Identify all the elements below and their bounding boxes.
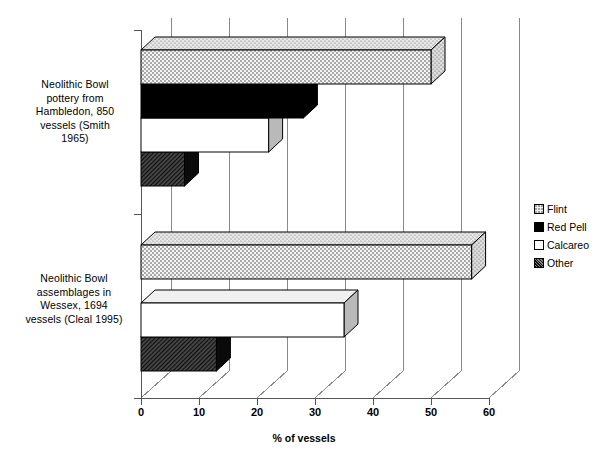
category-label-line: Hambledon, 850 <box>12 105 138 119</box>
legend-item-calcareous[interactable]: Calcareo <box>534 236 608 254</box>
legend-label-flint: Flint <box>547 203 567 215</box>
legend-swatch-other-icon <box>534 258 544 268</box>
x-tick-label-0: 0 <box>126 406 156 418</box>
plot-area <box>134 18 519 405</box>
chart-canvas <box>0 0 608 452</box>
category-label-wessex: Neolithic Bowl assemblages in Wessex, 16… <box>8 272 140 326</box>
x-tick-label-60: 60 <box>474 406 504 418</box>
x-axis-title: % of vessels <box>0 432 608 444</box>
legend-swatch-calcareous-icon <box>534 240 544 250</box>
legend-swatch-flint-icon <box>534 204 544 214</box>
bar-wessex-flint <box>141 232 486 279</box>
legend-swatch-red-pellet-icon <box>534 222 544 232</box>
x-tick-label-30: 30 <box>300 406 330 418</box>
category-label-line: pottery from <box>12 92 138 106</box>
legend-label-calcareous: Calcareo <box>547 239 589 251</box>
bar-hambledon-flint <box>141 37 445 84</box>
legend-item-flint[interactable]: Flint <box>534 200 608 218</box>
category-label-line: vessels (Cleal 1995) <box>8 313 140 327</box>
legend-label-other: Other <box>547 257 573 269</box>
category-label-line: Neolithic Bowl <box>12 78 138 92</box>
category-label-line: Wessex, 1694 <box>8 299 140 313</box>
category-label-hambledon: Neolithic Bowl pottery from Hambledon, 8… <box>12 78 138 146</box>
category-label-line: vessels (Smith <box>12 119 138 133</box>
x-tick-label-10: 10 <box>184 406 214 418</box>
category-label-line: Neolithic Bowl <box>8 272 140 286</box>
bar-wessex-calcareous <box>141 290 358 337</box>
category-label-line: assemblages in <box>8 286 140 300</box>
legend-item-other[interactable]: Other <box>534 254 608 272</box>
legend-label-red-pellet: Red Pell <box>547 221 587 233</box>
bar-chart: Neolithic Bowl pottery from Hambledon, 8… <box>0 0 608 452</box>
x-tick-label-20: 20 <box>242 406 272 418</box>
category-label-line: 1965) <box>12 132 138 146</box>
chart-legend: Flint Red Pell Calcareo Other <box>534 200 608 272</box>
value-axis <box>141 398 489 405</box>
x-tick-label-40: 40 <box>358 406 388 418</box>
x-tick-label-50: 50 <box>416 406 446 418</box>
legend-item-red-pellet[interactable]: Red Pell <box>534 218 608 236</box>
